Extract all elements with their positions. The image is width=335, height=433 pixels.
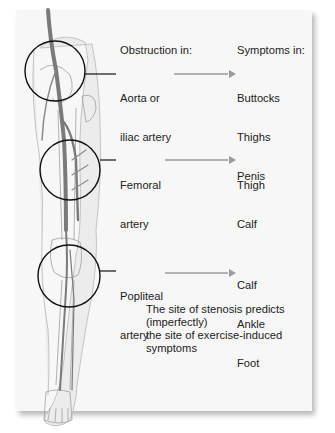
header-obstruction: Obstruction in: bbox=[120, 44, 192, 57]
leg-anatomy-illustration bbox=[0, 0, 335, 433]
symptoms-femoral-list: Thigh Calf bbox=[237, 153, 265, 244]
site-femoral-label: Femoral artery bbox=[120, 153, 161, 244]
site-aorta-label: Aorta or iliac artery bbox=[120, 66, 171, 157]
figure-caption: The site of stenosis predicts (imperfect… bbox=[146, 303, 335, 355]
header-symptoms: Symptoms in: bbox=[237, 44, 305, 57]
arrows bbox=[165, 70, 236, 277]
